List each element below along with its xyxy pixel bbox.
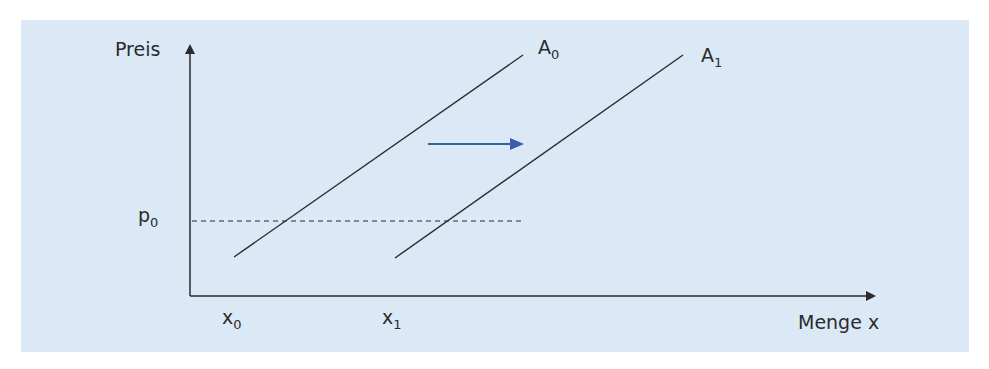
curve-label-a1: A1: [701, 46, 722, 69]
quantity-label-x0: x0: [222, 308, 242, 331]
y-axis-label: Preis: [115, 40, 160, 59]
price-label-p0: p0: [138, 206, 158, 229]
supply-curve-a0: [234, 55, 523, 257]
quantity-label-x1: x1: [382, 308, 402, 331]
x-axis-label: Menge x: [798, 313, 879, 332]
curve-label-a0: A0: [538, 38, 559, 61]
supply-curve-a1: [395, 55, 683, 258]
